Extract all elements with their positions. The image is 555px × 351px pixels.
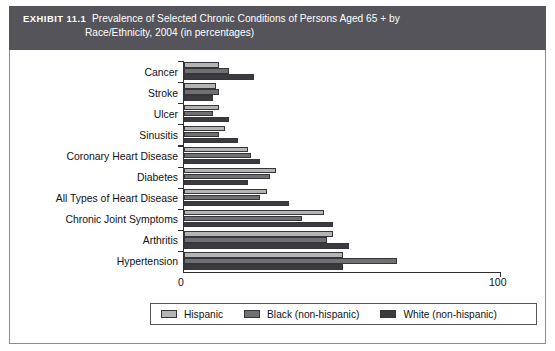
category-label: Ulcer [154, 108, 178, 119]
category-label: Diabetes [137, 172, 178, 183]
category-label: Sinusitis [139, 129, 178, 140]
bar-row: Cancer [10, 61, 547, 82]
bar-hispanic [184, 83, 216, 88]
category-label: Arthritis [143, 235, 178, 246]
bar-row: Sinusitis [10, 124, 547, 145]
bar-white-non-hispanic [184, 180, 248, 185]
bar-black-non-hispanic [184, 174, 270, 179]
bar-hispanic [184, 147, 248, 152]
bar-black-non-hispanic [184, 153, 251, 158]
bar-hispanic [184, 168, 276, 173]
title-line-2: Race/Ethnicity, 2004 (in percentages) [23, 26, 532, 40]
bar-row: Arthritis [10, 230, 547, 251]
chart-legend: HispanicBlack (non-hispanic)White (non-h… [150, 303, 537, 325]
bar-black-non-hispanic [184, 89, 219, 94]
bar-white-non-hispanic [184, 201, 289, 206]
plot-area: 0 100 CancerStrokeUlcerSinusitisCoronary… [10, 50, 547, 344]
y-axis-tick [178, 124, 183, 125]
exhibit-title-part-1: Prevalence of Selected Chronic Condition… [92, 13, 400, 24]
bar-hispanic [184, 189, 267, 194]
y-axis-tick [178, 82, 183, 83]
legend-entry[interactable]: Black (non-hispanic) [244, 309, 359, 320]
legend-label: White (non-hispanic) [403, 309, 496, 320]
y-axis-tick [178, 230, 183, 231]
category-label: Chronic Joint Symptoms [65, 214, 178, 225]
bar-white-non-hispanic [184, 117, 229, 122]
category-label: Cancer [145, 66, 179, 77]
bar-hispanic [184, 126, 225, 131]
bar-row: Diabetes [10, 167, 547, 188]
y-axis-tick [178, 61, 183, 62]
x-axis-line [183, 272, 501, 273]
exhibit-number: EXHIBIT 11.1 [23, 13, 86, 24]
bar-row: All Types of Heart Disease [10, 188, 547, 209]
bar-row: Chronic Joint Symptoms [10, 209, 547, 230]
category-label: All Types of Heart Disease [56, 193, 178, 204]
bar-row: Hypertension [10, 251, 547, 272]
exhibit-title-part-2: Race/Ethnicity, 2004 (in percentages) [85, 27, 254, 38]
bar-black-non-hispanic [184, 195, 260, 200]
bar-row: Coronary Heart Disease [10, 145, 547, 166]
bar-black-non-hispanic [184, 132, 219, 137]
bar-hispanic [184, 105, 219, 110]
category-label: Coronary Heart Disease [67, 150, 178, 161]
y-axis-tick [178, 251, 183, 252]
y-axis-tick [178, 145, 183, 146]
legend-swatch-icon [380, 310, 396, 318]
y-axis-tick [178, 167, 183, 168]
legend-entry[interactable]: Hispanic [161, 309, 223, 320]
x-axis-label-min: 0 [178, 276, 184, 288]
legend-swatch-icon [161, 310, 177, 318]
y-axis-tick [178, 103, 183, 104]
y-axis-tick [178, 209, 183, 210]
legend-entry[interactable]: White (non-hispanic) [380, 309, 496, 320]
bar-hispanic [184, 252, 343, 257]
bar-white-non-hispanic [184, 222, 333, 227]
bar-white-non-hispanic [184, 264, 343, 269]
bar-white-non-hispanic [184, 95, 213, 100]
bar-white-non-hispanic [184, 159, 260, 164]
x-axis-label-max: 100 [489, 276, 507, 288]
legend-label: Black (non-hispanic) [267, 309, 359, 320]
title-line-1: EXHIBIT 11.1 Prevalence of Selected Chro… [23, 12, 532, 26]
bar-white-non-hispanic [184, 74, 254, 79]
bar-white-non-hispanic [184, 243, 349, 248]
category-label: Hypertension [117, 256, 178, 267]
bar-white-non-hispanic [184, 138, 238, 143]
exhibit-title-banner: EXHIBIT 11.1 Prevalence of Selected Chro… [9, 6, 546, 50]
bar-hispanic [184, 231, 333, 236]
bar-row: Stroke [10, 82, 547, 103]
bar-black-non-hispanic [184, 111, 213, 116]
exhibit-container: EXHIBIT 11.1 Prevalence of Selected Chro… [9, 6, 546, 344]
bar-black-non-hispanic [184, 216, 302, 221]
bar-black-non-hispanic [184, 68, 229, 73]
bar-hispanic [184, 210, 324, 215]
bar-hispanic [184, 62, 219, 67]
bar-row: Ulcer [10, 103, 547, 124]
bar-black-non-hispanic [184, 258, 397, 263]
legend-swatch-icon [244, 310, 260, 318]
legend-label: Hispanic [184, 309, 223, 320]
category-label: Stroke [148, 87, 178, 98]
bar-black-non-hispanic [184, 237, 327, 242]
chart-frame: 0 100 CancerStrokeUlcerSinusitisCoronary… [9, 50, 546, 344]
y-axis-tick [178, 188, 183, 189]
